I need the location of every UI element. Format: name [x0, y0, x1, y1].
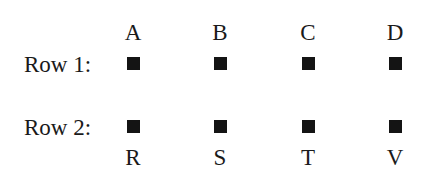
- column-label-s: S: [205, 146, 235, 169]
- row-1-marker-b: [214, 57, 227, 70]
- column-label-b: B: [205, 21, 235, 44]
- column-label-c: C: [293, 21, 323, 44]
- column-label-a: A: [118, 21, 148, 44]
- column-label-r: R: [118, 146, 148, 169]
- row-2-marker-v: [389, 120, 402, 133]
- row-1-marker-d: [389, 57, 402, 70]
- row-2-marker-t: [302, 120, 315, 133]
- column-label-d: D: [380, 21, 410, 44]
- row-1-marker-a: [127, 57, 140, 70]
- row-1-marker-c: [302, 57, 315, 70]
- column-label-t: T: [293, 146, 323, 169]
- column-label-v: V: [380, 146, 410, 169]
- row-2-marker-s: [214, 120, 227, 133]
- row-2-marker-r: [127, 120, 140, 133]
- row-2-label: Row 2:: [24, 116, 91, 139]
- row-1-label: Row 1:: [24, 53, 91, 76]
